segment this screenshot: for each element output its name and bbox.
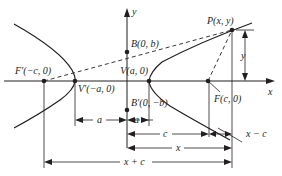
point-v-prime — [73, 79, 78, 84]
f-leader-line — [208, 81, 220, 92]
dimension-x-minus-c-label: x − c — [245, 128, 267, 139]
dimension-a-right-label: a — [134, 114, 139, 125]
point-p — [230, 28, 235, 33]
dimension-y: y — [236, 30, 254, 81]
label-f-prime: F′(−c, 0) — [14, 65, 52, 77]
dimension-x: x — [127, 142, 232, 153]
y-axis-arrow-icon — [124, 8, 130, 17]
point-f-prime — [42, 79, 47, 84]
point-b-prime — [125, 108, 130, 113]
y-axis: y — [124, 6, 137, 148]
x-axis-label: x — [267, 86, 273, 97]
dimension-c-label: c — [163, 128, 168, 139]
label-v-prime: V′(−a, 0) — [78, 83, 115, 95]
point-v — [147, 79, 152, 84]
dimension-x-label: x — [175, 142, 181, 153]
left-branch-curve — [14, 24, 75, 128]
dimension-x-plus-c: x + c — [44, 156, 232, 167]
dimension-a-left: a — [75, 114, 127, 125]
label-b: B(0, b) — [131, 38, 159, 50]
point-b — [125, 50, 130, 55]
label-f: F(c, 0) — [213, 93, 242, 105]
dashed-line-f-p — [208, 30, 232, 81]
label-b-prime: B′(0, −b) — [131, 97, 168, 109]
point-f — [206, 79, 211, 84]
dimension-c: c — [127, 128, 209, 139]
label-v: V(a, 0) — [120, 65, 148, 77]
x-axis-arrow-icon — [266, 78, 275, 84]
dimension-x-plus-c-label: x + c — [123, 156, 145, 167]
y-axis-label: y — [131, 6, 137, 17]
hyperbola-diagram: x y y a a — [0, 0, 282, 176]
dimension-y-label: y — [240, 50, 246, 61]
label-p: P(x, y) — [206, 15, 234, 27]
dimension-a-left-label: a — [97, 114, 102, 125]
